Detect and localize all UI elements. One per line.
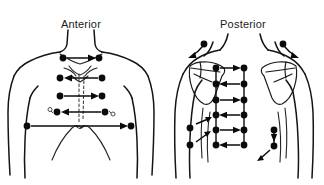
right-scapula-acromion xyxy=(285,62,286,78)
site-dot[interactable] xyxy=(201,41,208,48)
shoulder-right-outline xyxy=(102,52,148,76)
site-dot[interactable] xyxy=(241,81,248,88)
site-dot[interactable] xyxy=(213,97,220,104)
site-dot[interactable] xyxy=(271,143,278,150)
site-dot[interactable] xyxy=(241,112,248,119)
arrow-right-icon xyxy=(91,93,99,100)
arrow-right-icon xyxy=(233,127,241,133)
site-dot[interactable] xyxy=(102,109,109,116)
right-scapula-ridge xyxy=(274,74,292,82)
arrow-left-icon xyxy=(61,109,69,116)
arm-left-inner xyxy=(190,92,196,178)
site-dot[interactable] xyxy=(241,127,248,134)
shoulder-left-outline xyxy=(14,52,60,76)
axilla-right xyxy=(124,86,132,98)
site-dot[interactable] xyxy=(280,41,287,48)
arm-left-outer xyxy=(175,74,183,178)
clavicle-line xyxy=(60,54,102,64)
costal-margin xyxy=(52,126,110,161)
arm-left-inner xyxy=(25,98,31,178)
site-dot[interactable] xyxy=(54,109,61,116)
site-dot[interactable] xyxy=(187,125,194,132)
sternal-notch-curve xyxy=(72,76,88,82)
arrow-left-icon xyxy=(219,112,227,118)
neck-left-outline xyxy=(220,34,228,50)
site-dot[interactable] xyxy=(187,142,194,149)
neck-left-outline xyxy=(60,30,68,52)
arrow-left-icon xyxy=(219,142,227,148)
arm-right-inner xyxy=(293,92,299,178)
site-dot[interactable] xyxy=(241,142,248,149)
auxiliary-open-mark xyxy=(111,112,115,116)
site-dot[interactable] xyxy=(57,75,64,82)
anterior-torso-drawing xyxy=(0,0,162,185)
site-dot[interactable] xyxy=(99,93,106,100)
neck-right-outline xyxy=(94,30,102,52)
site-dot[interactable] xyxy=(60,55,67,62)
arm-right-inner xyxy=(132,98,138,178)
sternum-midline-secondary xyxy=(83,76,84,120)
site-dot[interactable] xyxy=(213,127,220,134)
site-dot[interactable] xyxy=(213,65,220,72)
site-dot[interactable] xyxy=(241,97,248,104)
site-dot[interactable] xyxy=(24,123,31,130)
posterior-torso-drawing xyxy=(162,0,324,185)
arm-left-outer xyxy=(8,76,14,175)
site-dot[interactable] xyxy=(213,142,220,149)
site-dot[interactable] xyxy=(213,81,220,88)
site-dot[interactable] xyxy=(128,123,135,130)
auxiliary-open-mark-tail xyxy=(51,111,53,113)
left-scapula-ridge xyxy=(194,74,212,82)
axilla-right xyxy=(286,80,293,92)
site-dot[interactable] xyxy=(99,75,106,82)
arm-right-outer xyxy=(148,76,154,175)
flank-right-line xyxy=(285,108,287,158)
arrow-left-icon xyxy=(64,75,72,82)
sequence-line-diagonal xyxy=(261,150,270,158)
arrow-right-icon xyxy=(233,65,241,71)
axilla-left xyxy=(30,86,38,98)
manubrium-curve xyxy=(69,66,91,75)
left-scapula-acromion xyxy=(200,62,201,78)
arm-right-outer xyxy=(305,74,313,178)
figure-canvas: Anterior xyxy=(0,0,324,185)
arrow-down-icon xyxy=(271,134,277,142)
panel-posterior: Posterior xyxy=(162,0,324,185)
axilla-left xyxy=(195,80,202,92)
right-scapula-spine xyxy=(266,68,295,72)
site-dot[interactable] xyxy=(241,65,248,72)
pectoral-right-curve xyxy=(85,68,97,76)
arrow-right-icon xyxy=(120,123,128,130)
neck-right-outline xyxy=(260,34,268,50)
arrow-right-icon xyxy=(88,55,96,62)
site-dot[interactable] xyxy=(96,55,103,62)
site-dot[interactable] xyxy=(271,127,278,134)
site-dot[interactable] xyxy=(57,93,64,100)
flank-left-line xyxy=(201,108,203,158)
auxiliary-open-mark-tail xyxy=(109,111,111,113)
arrow-right-icon xyxy=(233,97,241,103)
site-dot[interactable] xyxy=(213,112,220,119)
panel-anterior: Anterior xyxy=(0,0,162,185)
lower-back-right xyxy=(278,112,281,162)
